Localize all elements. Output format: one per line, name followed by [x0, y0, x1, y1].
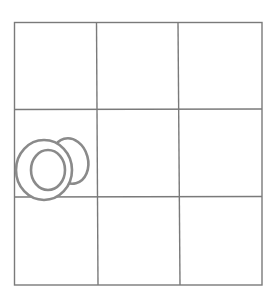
cell-0-2[interactable] — [179, 23, 262, 109]
cell-0-1[interactable] — [97, 23, 179, 109]
cell-0-0[interactable] — [15, 23, 97, 109]
cell-2-1[interactable] — [97, 197, 179, 285]
cell-2-0[interactable] — [15, 197, 97, 285]
cell-2-2[interactable] — [179, 197, 262, 285]
horizontal-line-1 — [15, 109, 263, 110]
cell-1-1[interactable] — [97, 110, 179, 197]
game-board — [0, 0, 275, 297]
cell-1-2[interactable] — [179, 110, 262, 197]
